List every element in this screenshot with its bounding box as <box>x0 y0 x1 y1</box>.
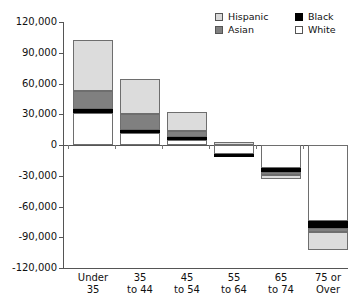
x-tick <box>256 145 257 149</box>
bar-segment-hispanic[interactable] <box>73 40 113 90</box>
bar-segment-hispanic[interactable] <box>308 232 348 249</box>
bar-segment-hispanic[interactable] <box>120 79 160 114</box>
y-tick-label: -60,000 <box>1 202 57 212</box>
y-tick <box>59 84 63 85</box>
y-tick-label: 120,000 <box>1 17 57 27</box>
bar-segment-black[interactable] <box>167 137 207 140</box>
bar-segment-asian[interactable] <box>167 131 207 137</box>
bar-segment-white[interactable] <box>120 133 160 145</box>
x-axis-label-75-or-over: 75 orOver <box>300 272 354 296</box>
bar-segment-asian[interactable] <box>120 114 160 129</box>
bar-segment-black[interactable] <box>73 109 113 114</box>
bar-segment-black[interactable] <box>214 154 254 157</box>
x-tick <box>303 145 304 149</box>
x-axis-label-line: 75 or <box>300 272 354 284</box>
bar-35-to-44[interactable] <box>120 20 160 268</box>
y-tick-label: -90,000 <box>1 232 57 242</box>
y-tick-label: 90,000 <box>1 48 57 58</box>
bar-55-to-64[interactable] <box>214 20 254 268</box>
x-axis-label-line: Over <box>300 284 354 296</box>
bar-segment-asian[interactable] <box>73 91 113 109</box>
y-tick <box>59 53 63 54</box>
y-tick <box>59 145 63 146</box>
chart-container: Hispanic Asian Black White 120,00090,000… <box>0 0 354 307</box>
y-tick-label: -120,000 <box>1 263 57 273</box>
bar-65-to-74[interactable] <box>261 20 301 268</box>
bar-segment-white[interactable] <box>308 145 348 221</box>
bar-segment-hispanic[interactable] <box>167 112 207 130</box>
x-axis-labels: Under3535to 4445to 5455to 6465to 7475 or… <box>63 272 348 304</box>
y-tick <box>59 176 63 177</box>
bar-segment-white[interactable] <box>261 145 301 168</box>
plot-area <box>63 20 348 268</box>
x-tick <box>162 145 163 149</box>
y-tick <box>59 237 63 238</box>
bar-segment-white[interactable] <box>73 113 113 145</box>
bar-75-or-over[interactable] <box>308 20 348 268</box>
x-tick <box>115 145 116 149</box>
bar-under-35[interactable] <box>73 20 113 268</box>
x-axis-line <box>63 268 348 269</box>
x-tick <box>68 145 69 149</box>
bar-segment-black[interactable] <box>120 130 160 133</box>
bar-segment-white[interactable] <box>167 140 207 145</box>
y-tick <box>59 268 63 269</box>
y-tick-label: 30,000 <box>1 109 57 119</box>
x-tick <box>209 145 210 149</box>
bar-segment-black[interactable] <box>308 221 348 228</box>
bar-45-to-54[interactable] <box>167 20 207 268</box>
y-tick-label: 0 <box>1 140 57 150</box>
bar-segment-white[interactable] <box>214 145 254 154</box>
y-tick <box>59 114 63 115</box>
y-tick-label: -30,000 <box>1 171 57 181</box>
y-tick-label: 60,000 <box>1 79 57 89</box>
y-tick <box>59 207 63 208</box>
bar-segment-hispanic[interactable] <box>261 175 301 179</box>
y-tick <box>59 22 63 23</box>
